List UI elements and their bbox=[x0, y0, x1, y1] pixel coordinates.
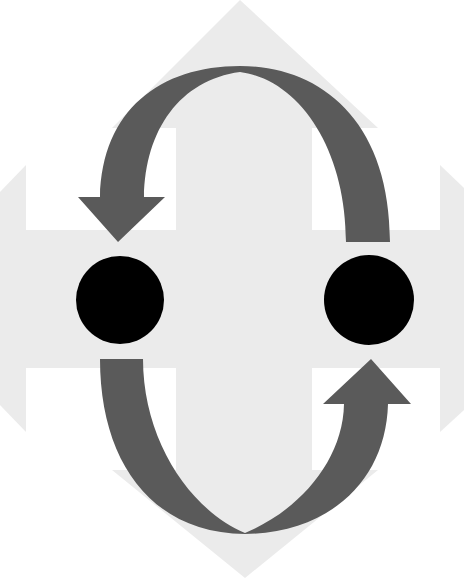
right-node bbox=[324, 255, 414, 345]
left-node bbox=[76, 256, 164, 344]
cycle-diagram bbox=[0, 0, 464, 578]
